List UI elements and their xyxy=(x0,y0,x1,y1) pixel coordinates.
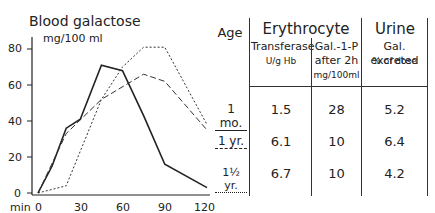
x-tick-90: 90 xyxy=(158,201,172,213)
row-1mo-transferase: 1.5 xyxy=(251,102,311,117)
row-1yr-age: 1 yr. xyxy=(215,134,247,149)
row-1half-yr-transferase: 6.7 xyxy=(251,166,311,181)
header-divider xyxy=(249,86,428,87)
y-ticks: 80 60 40 20 0 xyxy=(8,42,32,200)
sub-transferase-header: Transferase xyxy=(251,40,311,54)
x-ticks: min 0 30 60 90 120 xyxy=(10,201,215,213)
y-tick-20: 20 xyxy=(8,151,22,164)
row-1yr-excreted: 6.4 xyxy=(362,134,427,149)
y-tick-0: 0 xyxy=(14,187,21,200)
divider xyxy=(427,18,428,196)
row-1half-yr-gal1p: 10 xyxy=(312,166,361,181)
sub-gal1p-header-2: after 2h xyxy=(312,54,361,68)
chart-title: Blood galactose xyxy=(29,13,141,29)
col-age-header: Age xyxy=(215,26,245,40)
sub-gal1p-header: Gal.-1-P xyxy=(312,40,361,54)
group-urine-header: Urine xyxy=(363,20,427,38)
y-tick-40: 40 xyxy=(8,115,22,128)
row-1mo-gal1p: 28 xyxy=(312,102,361,117)
sub-galexc-unit: % of dose xyxy=(362,56,427,66)
row-1half-yr-excreted: 4.2 xyxy=(362,166,427,181)
row-1mo-excreted: 5.2 xyxy=(362,102,427,117)
blood-galactose-chart: Blood galactose mg/100 ml 80 60 40 20 0 … xyxy=(0,0,215,213)
row-1half-yr-age: 1½ yr. xyxy=(215,166,247,193)
series-1half-yr-dotted xyxy=(38,47,207,193)
sub-transferase-unit: U/g Hb xyxy=(251,56,311,66)
row-1yr-gal1p: 10 xyxy=(312,134,361,149)
divider xyxy=(249,18,250,196)
sub-gal1p-unit: mg/100ml xyxy=(312,70,361,80)
row-1yr-transferase: 6.1 xyxy=(251,134,311,149)
x-tick-0: 0 xyxy=(35,201,42,213)
x-tick-30: 30 xyxy=(74,201,88,213)
x-tick-120: 120 xyxy=(194,201,215,213)
y-tick-60: 60 xyxy=(8,79,22,92)
y-tick-80: 80 xyxy=(8,42,22,55)
row-1mo-age: 1 mo. xyxy=(215,102,247,131)
x-tick-60: 60 xyxy=(116,201,130,213)
group-erythrocyte-header: Erythrocyte xyxy=(251,20,361,38)
series-1mo-solid xyxy=(38,65,207,193)
chart-unit: mg/100 ml xyxy=(43,32,103,45)
x-unit: min xyxy=(10,201,31,213)
